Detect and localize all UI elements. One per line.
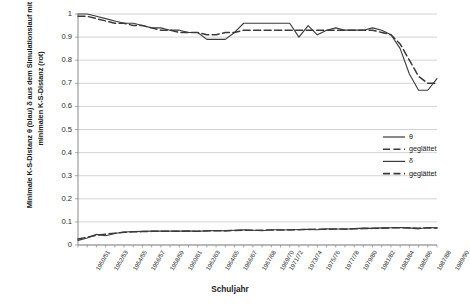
x-axis-title: Schuljahr [0, 285, 460, 294]
y-tick-label: 1 [46, 9, 72, 18]
y-tick-label: 0.3 [46, 171, 72, 180]
y-tick-label: 0.5 [46, 125, 72, 134]
y-tick-label: 0.1 [46, 217, 72, 226]
series-line-1 [78, 16, 437, 83]
legend-label-2: δ [409, 156, 413, 165]
y-tick-label: 0.6 [46, 101, 72, 110]
legend-label-1: geglättet [409, 144, 437, 153]
y-tick-label: 0.9 [46, 32, 72, 41]
series-line-3 [78, 228, 437, 239]
y-tick-label: 0.4 [46, 148, 72, 157]
y-tick-label: 0.8 [46, 55, 72, 64]
y-tick-label: 0 [46, 240, 72, 249]
legend-label-3: geglättet [409, 169, 437, 178]
series-line-2 [78, 227, 437, 240]
y-tick-label: 0.7 [46, 78, 72, 87]
y-tick-label: 0.2 [46, 194, 72, 203]
legend-label-0: θ [409, 132, 413, 141]
